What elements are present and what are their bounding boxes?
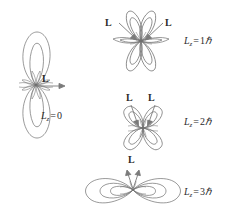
orbital-diagram-lz0 xyxy=(6,30,76,140)
vector-label-l-lz0: L xyxy=(42,74,49,84)
lz-value: 0 xyxy=(57,110,62,121)
lz-unit: ℏ xyxy=(205,35,211,46)
lz-label-lz0: Lz=0 xyxy=(41,111,62,123)
vector-label-l-left-lz1: L xyxy=(105,18,112,28)
vector-label-l-lz3: L xyxy=(128,155,135,165)
orbital-diagram-lz2 xyxy=(104,100,182,156)
orbital-plot-lz0 xyxy=(6,30,76,140)
lz-label-lz1: Lz=1ℏ xyxy=(184,36,211,48)
vector-label-l-right-lz2: L xyxy=(148,93,155,103)
lz-equals: = xyxy=(192,186,200,197)
vector-label-l-right-lz1: L xyxy=(165,18,172,28)
lz-label-lz2: Lz=2ℏ xyxy=(184,117,211,129)
vector-label-l-left-lz2: L xyxy=(126,93,133,103)
lz-equals: = xyxy=(49,110,57,121)
orbital-diagram-lz3 xyxy=(84,168,182,214)
angular-momentum-figure: L Lz=0 xyxy=(0,0,241,218)
orbital-plot-lz3 xyxy=(84,168,182,214)
lz-unit: ℏ xyxy=(205,116,211,127)
lz-equals: = xyxy=(192,116,200,127)
lz-unit: ℏ xyxy=(205,186,211,197)
lz-label-lz3: Lz=3ℏ xyxy=(184,187,211,199)
vector-arrow-l-lz0 xyxy=(36,83,65,88)
lz-equals: = xyxy=(192,35,200,46)
orbital-plot-lz2 xyxy=(104,100,182,156)
